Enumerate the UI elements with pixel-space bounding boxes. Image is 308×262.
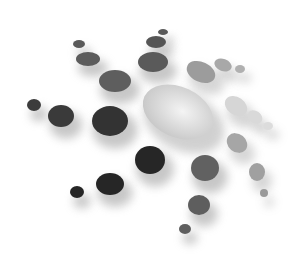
dot-15 [263, 122, 273, 130]
dot-19 [135, 146, 165, 174]
dot-1 [27, 99, 41, 111]
dot-17 [249, 163, 265, 181]
dot-22 [191, 155, 219, 181]
dot-21 [70, 186, 84, 198]
dot-23 [188, 195, 210, 215]
dot-4 [73, 40, 85, 48]
dot-2 [48, 105, 74, 127]
dot-9 [138, 52, 168, 72]
dot-6 [99, 70, 131, 92]
dot-20 [96, 173, 124, 195]
dot-8 [146, 36, 166, 48]
dot-3 [92, 106, 128, 136]
dot-7 [158, 29, 168, 35]
dot-5 [76, 52, 100, 66]
abstract-dot-burst-graphic [0, 0, 308, 262]
dot-24 [179, 224, 191, 234]
dot-18 [260, 189, 268, 197]
dot-12 [235, 65, 245, 73]
